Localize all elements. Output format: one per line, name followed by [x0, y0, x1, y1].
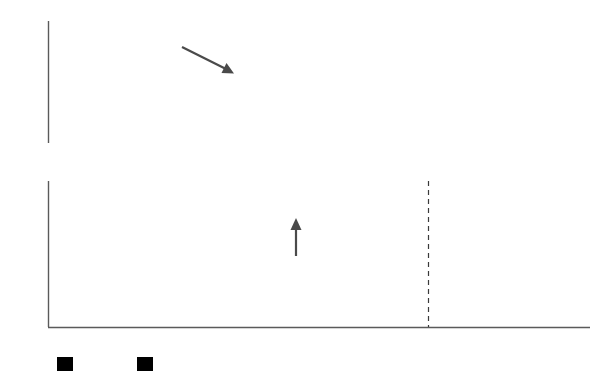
legend-swatch-world	[57, 357, 73, 371]
legend-swatch-world-excluding-china	[137, 357, 153, 371]
chart-background	[0, 0, 611, 389]
figure-container	[0, 0, 611, 389]
fisheries-chart	[0, 0, 611, 389]
